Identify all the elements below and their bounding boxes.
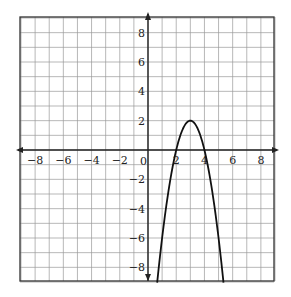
x-axis-right-arrow-icon (272, 147, 279, 153)
y-tick-label: 2 (138, 115, 145, 128)
x-tick-label: −2 (112, 154, 128, 167)
x-tick-label: 8 (257, 154, 264, 167)
x-tick-label: −6 (55, 154, 71, 167)
y-tick-label: 6 (138, 56, 145, 69)
y-tick-label: 8 (138, 27, 145, 40)
y-tick-label: −6 (129, 232, 145, 245)
axes (16, 12, 279, 281)
coordinate-plane: −8−6−4−224688642−2−4−6−8 0 (0, 0, 291, 297)
x-tick-label: −8 (27, 154, 43, 167)
y-axis-down-arrow-icon (145, 274, 151, 281)
y-tick-label: −4 (129, 203, 145, 216)
y-tick-label: 4 (138, 85, 145, 98)
x-tick-label: 6 (229, 154, 236, 167)
y-tick-label: −2 (129, 173, 145, 186)
origin-label: 0 (140, 155, 147, 168)
x-tick-label: −4 (83, 154, 99, 167)
plot-border (20, 17, 274, 281)
y-tick-label: −8 (129, 261, 145, 274)
y-axis-up-arrow-icon (145, 12, 151, 20)
